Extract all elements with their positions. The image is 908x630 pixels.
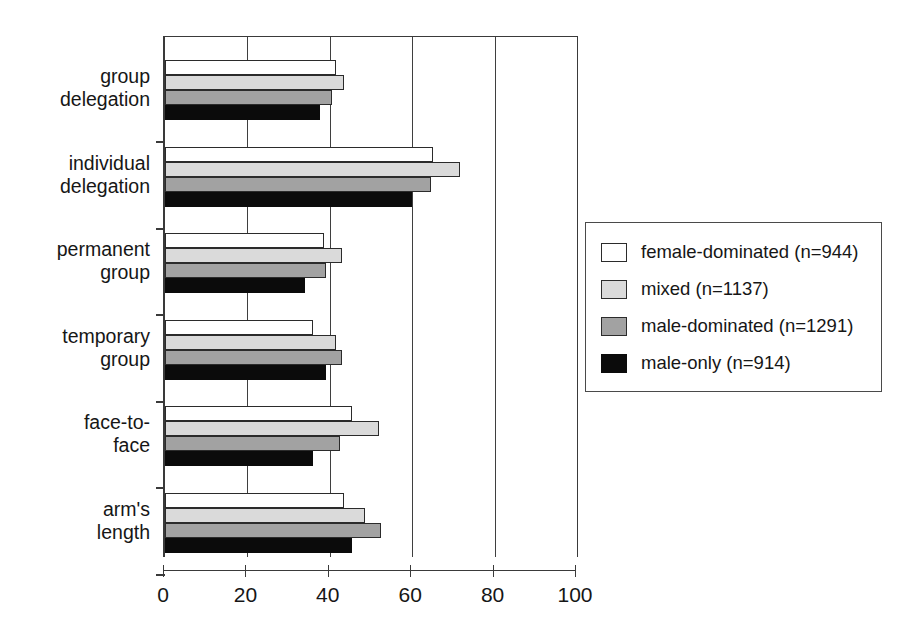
x-axis: 020406080100: [163, 570, 575, 571]
legend-item: female-dominated (n=944): [601, 241, 859, 263]
x-tick: [245, 565, 246, 577]
legend-item: male-only (n=914): [601, 352, 791, 374]
x-tick: [493, 565, 494, 577]
legend-label: female-dominated (n=944): [641, 241, 859, 263]
bar-group: [165, 406, 577, 466]
x-tick-label: 60: [375, 583, 445, 607]
y-tick: [156, 228, 165, 230]
x-tick: [575, 565, 576, 577]
y-tick: [156, 141, 165, 143]
bar-female-dominated: [165, 147, 433, 162]
bar-male-dominated: [165, 263, 326, 278]
x-tick-label: 20: [210, 583, 280, 607]
y-tick: [156, 487, 165, 489]
bar-group: [165, 60, 577, 120]
bar-chart-figure: group delegationindividual delegationper…: [0, 0, 908, 630]
x-tick-label: 80: [458, 583, 528, 607]
bar-male-only: [165, 538, 352, 553]
bar-male-dominated: [165, 90, 332, 105]
bar-female-dominated: [165, 233, 324, 248]
x-tick-label: 40: [293, 583, 363, 607]
legend-label: male-dominated (n=1291): [641, 315, 853, 337]
bar-female-dominated: [165, 320, 313, 335]
bar-mixed: [165, 335, 336, 350]
bar-male-dominated: [165, 436, 340, 451]
bar-male-only: [165, 105, 320, 120]
bar-mixed: [165, 248, 342, 263]
plot-area: [163, 36, 578, 557]
legend-swatch-mixed: [601, 280, 627, 299]
y-axis-label: temporary group: [0, 325, 150, 371]
bar-group: [165, 493, 577, 553]
y-axis-label: face-to- face: [0, 411, 150, 457]
bar-female-dominated: [165, 406, 352, 421]
x-tick: [163, 565, 164, 577]
y-axis-label: arm's length: [0, 498, 150, 544]
y-axis-label: group delegation: [0, 65, 150, 111]
y-tick: [156, 401, 165, 403]
legend-swatch-male-dominated: [601, 317, 627, 336]
bar-mixed: [165, 75, 344, 90]
bar-male-only: [165, 278, 305, 293]
bar-male-dominated: [165, 177, 431, 192]
bar-group: [165, 233, 577, 293]
bar-male-dominated: [165, 523, 381, 538]
bar-male-only: [165, 451, 313, 466]
legend-swatch-female-dominated: [601, 243, 627, 262]
bar-group: [165, 320, 577, 380]
bar-group: [165, 147, 577, 207]
legend-label: male-only (n=914): [641, 352, 791, 374]
y-tick: [156, 314, 165, 316]
legend-item: mixed (n=1137): [601, 278, 769, 300]
legend-swatch-male-only: [601, 354, 627, 373]
bar-mixed: [165, 508, 365, 523]
x-tick-label: 100: [540, 583, 610, 607]
chart-legend: female-dominated (n=944)mixed (n=1137)ma…: [585, 222, 882, 392]
bar-female-dominated: [165, 60, 336, 75]
bar-male-only: [165, 365, 326, 380]
x-tick: [410, 565, 411, 577]
x-tick-label: 0: [128, 583, 198, 607]
x-tick: [328, 565, 329, 577]
y-axis-label: individual delegation: [0, 152, 150, 198]
bar-mixed: [165, 162, 460, 177]
bar-female-dominated: [165, 493, 344, 508]
bar-mixed: [165, 421, 379, 436]
legend-item: male-dominated (n=1291): [601, 315, 853, 337]
y-axis-label: permanent group: [0, 238, 150, 284]
bar-male-dominated: [165, 350, 342, 365]
bar-male-only: [165, 192, 412, 207]
legend-label: mixed (n=1137): [641, 278, 769, 300]
